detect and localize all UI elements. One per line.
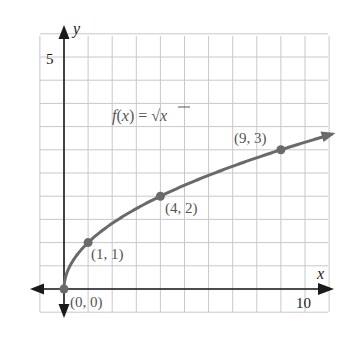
point-9-3 [276,145,285,154]
point-label-4-2: (4, 2) [165,200,198,217]
y-tick-5: 5 [46,51,54,67]
x-axis-right-arrow-icon [318,283,334,295]
point-4-2 [156,192,165,201]
y-axis-label: y [71,20,81,38]
radicand: x [159,107,167,124]
radical-icon: √ [151,107,160,124]
point-label-0-0: (0, 0) [70,294,103,311]
function-label: f(x) = √x [112,107,190,125]
y-axis-down-arrow-icon [59,304,70,318]
x-axis-label: x [316,265,324,282]
y-axis-up-arrow-icon [59,25,70,39]
labeled-points: (0, 0) (1, 1) (4, 2) (9, 3) [60,130,286,311]
point-0-0 [60,285,69,294]
curve-arrow-icon [321,132,336,143]
x-axis-left-arrow-icon [30,284,44,295]
grid [40,34,329,312]
axes: x y 5 10 [30,20,334,318]
point-label-1-1: (1, 1) [91,246,124,263]
sqrt-function-graph: x y 5 10 f(x) = √x (0, 0) (1, 1) (4, 2) … [0,0,352,337]
svg-text:f(x) = √x: f(x) = √x [112,107,167,125]
point-label-9-3: (9, 3) [234,130,267,147]
x-tick-10: 10 [296,295,311,311]
